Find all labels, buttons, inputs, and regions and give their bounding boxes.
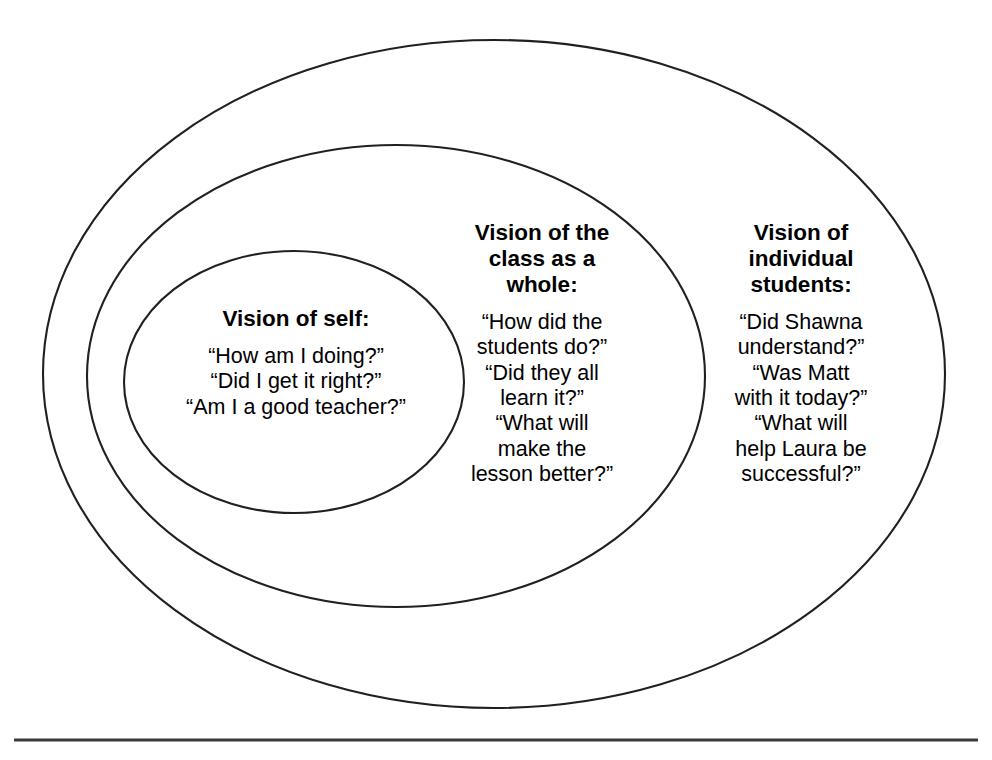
vision-of-students-question-1-line-1: “Did Shawna bbox=[739, 310, 862, 334]
vision-of-students-heading: Vision of individual students: bbox=[712, 220, 890, 298]
vision-of-students-question-3-line-3: successful?” bbox=[741, 462, 861, 486]
vision-of-class-question-3-line-3: lesson better?” bbox=[471, 462, 613, 486]
vision-of-class-question-3-line-2: make the bbox=[498, 437, 586, 461]
vision-of-class-question-3: “What will make the lesson better?” bbox=[452, 411, 632, 487]
vision-of-self-question-3: “Am I a good teacher?” bbox=[148, 395, 444, 420]
vision-of-students-question-1-line-2: understand?” bbox=[738, 335, 865, 359]
vision-of-students-question-3-line-2: help Laura be bbox=[735, 437, 867, 461]
vision-of-class-heading-line-3: whole: bbox=[506, 272, 577, 297]
label-vision-of-individual-students: Vision of individual students: “Did Shaw… bbox=[712, 220, 890, 487]
vision-of-class-question-3-line-1: “What will bbox=[495, 411, 588, 435]
vision-of-students-heading-line-1: Vision of bbox=[754, 220, 849, 245]
vision-of-class-question-1-line-1: “How did the bbox=[482, 310, 603, 334]
vision-of-self-heading: Vision of self: bbox=[148, 306, 444, 333]
label-vision-of-self: Vision of self: “How am I doing?” “Did I… bbox=[148, 306, 444, 420]
vision-of-students-heading-line-3: students: bbox=[750, 272, 851, 297]
vision-of-students-heading-line-2: individual bbox=[748, 246, 853, 271]
vision-of-class-heading-line-1: Vision of the bbox=[475, 220, 610, 245]
vision-of-class-question-1: “How did the students do?” bbox=[452, 310, 632, 361]
diagram-canvas: Vision of self: “How am I doing?” “Did I… bbox=[0, 0, 992, 760]
vision-of-students-question-1: “Did Shawna understand?” bbox=[712, 310, 890, 361]
vision-of-students-question-2-line-2: with it today?” bbox=[735, 386, 868, 410]
vision-of-class-heading-line-2: class as a bbox=[489, 246, 595, 271]
vision-of-self-question-1: “How am I doing?” bbox=[148, 344, 444, 369]
vision-of-class-question-2-line-2: learn it?” bbox=[500, 386, 584, 410]
vision-of-students-question-2-line-1: “Was Matt bbox=[752, 361, 849, 385]
vision-of-class-question-2: “Did they all learn it?” bbox=[452, 361, 632, 412]
vision-of-students-question-3-line-1: “What will bbox=[754, 411, 847, 435]
vision-of-class-question-2-line-1: “Did they all bbox=[485, 361, 599, 385]
vision-of-self-question-2: “Did I get it right?” bbox=[148, 369, 444, 394]
vision-of-students-question-2: “Was Matt with it today?” bbox=[712, 361, 890, 412]
label-vision-of-class-as-a-whole: Vision of the class as a whole: “How did… bbox=[452, 220, 632, 487]
vision-of-class-heading: Vision of the class as a whole: bbox=[452, 220, 632, 298]
vision-of-students-question-3: “What will help Laura be successful?” bbox=[712, 411, 890, 487]
vision-of-class-question-1-line-2: students do?” bbox=[477, 335, 607, 359]
